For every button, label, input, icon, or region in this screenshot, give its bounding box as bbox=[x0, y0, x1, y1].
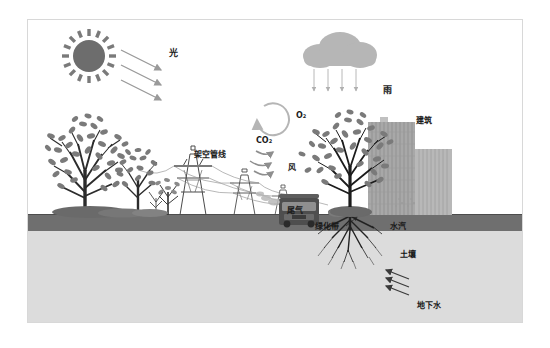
label-green-belt: 绿化带 bbox=[315, 223, 339, 231]
label-co2: CO2 bbox=[256, 137, 272, 145]
sun-icon bbox=[62, 29, 116, 83]
diagram-canvas: 光 雨 O2 CO2 建筑 架空管线 风 尾气 绿化带 水汽 土壤 地下水 bbox=[0, 0, 550, 348]
co2-o2-cycle-arrow bbox=[257, 103, 289, 135]
label-co2-subscript: 2 bbox=[269, 138, 272, 144]
wind-arrows bbox=[250, 151, 273, 175]
shrub-hedge-left bbox=[52, 206, 168, 218]
root-collar-mound bbox=[330, 207, 370, 217]
label-light: 光 bbox=[169, 49, 178, 58]
diagram-artwork bbox=[28, 20, 522, 322]
label-overhead-pipeline: 架空管线 bbox=[194, 151, 226, 159]
tree-small-left bbox=[154, 177, 180, 215]
rain-arrows bbox=[314, 69, 356, 91]
transmission-tower-2 bbox=[230, 169, 259, 215]
cloud-icon bbox=[303, 32, 377, 68]
ground-subsoil-layer bbox=[28, 230, 522, 322]
label-soil: 土壤 bbox=[400, 251, 416, 259]
tree-large-left bbox=[44, 113, 129, 215]
building-short bbox=[415, 149, 452, 215]
label-co2-text: CO bbox=[256, 136, 269, 145]
light-ray-arrows bbox=[121, 50, 161, 100]
label-groundwater: 地下水 bbox=[417, 302, 441, 310]
label-o2-subscript: 2 bbox=[303, 113, 306, 119]
diagram-frame: 光 雨 O2 CO2 建筑 架空管线 风 尾气 绿化带 水汽 土壤 地下水 bbox=[27, 19, 523, 323]
label-water-vapor: 水汽 bbox=[390, 223, 406, 231]
label-building: 建筑 bbox=[416, 117, 432, 125]
label-o2-text: O bbox=[296, 111, 303, 120]
label-rain: 雨 bbox=[383, 86, 392, 95]
label-wind: 风 bbox=[288, 164, 296, 172]
label-o2: O2 bbox=[296, 112, 306, 120]
label-exhaust: 尾气 bbox=[287, 207, 303, 215]
